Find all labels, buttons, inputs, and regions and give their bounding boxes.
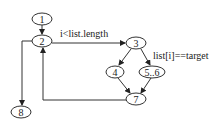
svg-text:2: 2 xyxy=(40,36,45,47)
svg-text:1: 1 xyxy=(40,14,45,25)
edge-5_6-7 xyxy=(141,78,151,93)
svg-text:4: 4 xyxy=(113,67,118,78)
node-1: 1 xyxy=(32,13,52,25)
edge-4-7 xyxy=(118,78,130,93)
node-8: 8 xyxy=(11,106,31,118)
node-4: 4 xyxy=(106,66,124,78)
svg-text:5..6: 5..6 xyxy=(145,67,160,78)
node-7: 7 xyxy=(126,93,146,105)
svg-text:7: 7 xyxy=(134,94,139,105)
edge-2-8 xyxy=(22,41,32,105)
node-2: 2 xyxy=(32,35,52,47)
edge-label-loop-condition: i<list.length xyxy=(60,28,108,39)
svg-text:3: 3 xyxy=(134,38,139,49)
svg-text:8: 8 xyxy=(19,107,24,118)
node-3: 3 xyxy=(126,37,146,49)
node-5-6: 5..6 xyxy=(139,66,165,78)
edge-3-5_6 xyxy=(141,49,150,65)
control-flow-diagram: i<list.length list[i]==target 1 2 3 4 5.… xyxy=(0,0,222,129)
edge-label-branch-condition: list[i]==target xyxy=(153,50,209,61)
edge-3-4 xyxy=(119,49,131,65)
